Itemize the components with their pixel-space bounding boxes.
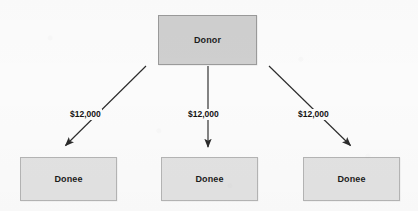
donor-node-label: Donor xyxy=(194,36,221,45)
edge-arrow-donee-1 xyxy=(66,66,147,146)
donee-node-2: Donee xyxy=(161,157,258,201)
donee-node-3-label: Donee xyxy=(337,175,365,184)
donee-node-3: Donee xyxy=(303,157,400,201)
edge-amount-label-1: $12,000 xyxy=(69,109,102,120)
donee-node-2-label: Donee xyxy=(195,175,223,184)
donee-node-1: Donee xyxy=(20,157,117,201)
edge-arrow-donee-3 xyxy=(269,66,351,146)
donee-node-1-label: Donee xyxy=(54,175,82,184)
edge-amount-label-3: $12,000 xyxy=(297,109,330,120)
gift-flow-diagram: Donor Donee Donee Donee $12,000 $12,000 … xyxy=(0,0,418,211)
donor-node: Donor xyxy=(158,15,257,65)
edge-amount-label-2: $12,000 xyxy=(187,109,220,120)
